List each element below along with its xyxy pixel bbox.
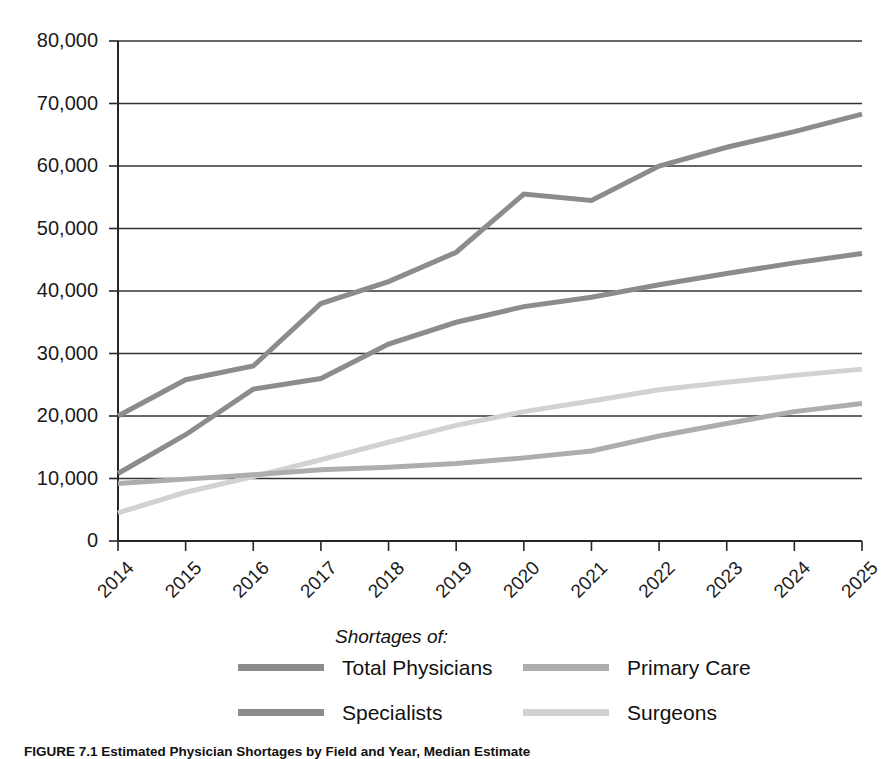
legend-title: Shortages of:: [335, 626, 448, 648]
legend-swatch-specialists: [238, 709, 324, 716]
legend-label-surgeons: Surgeons: [627, 702, 717, 723]
data-series: [118, 114, 862, 513]
x-tick-label: 2018: [364, 557, 409, 602]
chart-plot-area: 010,00020,00030,00040,00050,00060,00070,…: [0, 0, 887, 620]
y-tick-label: 40,000: [37, 279, 98, 301]
legend-swatch-primary-care: [523, 664, 609, 671]
legend-label-specialists: Specialists: [342, 702, 442, 723]
chart-legend: Shortages of: Total Physicians Specialis…: [0, 626, 887, 730]
x-tick-label: 2017: [296, 557, 341, 602]
y-axis-tick-labels: 010,00020,00030,00040,00050,00060,00070,…: [37, 29, 98, 551]
series-line-total-physicians: [118, 114, 862, 416]
x-tick-label: 2023: [702, 557, 747, 602]
legend-item-primary-care[interactable]: Primary Care: [523, 657, 751, 678]
legend-item-surgeons[interactable]: Surgeons: [523, 702, 717, 723]
legend-label-total-physicians: Total Physicians: [342, 657, 493, 678]
y-tick-label: 0: [87, 529, 98, 551]
y-tick-label: 30,000: [37, 342, 98, 364]
gridlines: [118, 41, 862, 479]
y-tick-label: 50,000: [37, 217, 98, 239]
series-line-specialists: [118, 254, 862, 474]
legend-swatch-surgeons: [523, 709, 609, 716]
legend-swatch-total-physicians: [238, 664, 324, 671]
x-tick-label: 2020: [499, 557, 544, 602]
y-tick-label: 10,000: [37, 467, 98, 489]
legend-item-specialists[interactable]: Specialists: [238, 702, 442, 723]
y-tick-label: 70,000: [37, 92, 98, 114]
x-tick-label: 2019: [431, 557, 476, 602]
x-tick-label: 2024: [769, 557, 814, 602]
x-axis-ticks: [118, 541, 862, 551]
y-tick-label: 60,000: [37, 154, 98, 176]
y-tick-label: 20,000: [37, 404, 98, 426]
figure-caption: FIGURE 7.1 Estimated Physician Shortages…: [24, 744, 884, 759]
x-tick-label: 2015: [161, 557, 206, 602]
x-tick-label: 2021: [567, 557, 612, 602]
x-tick-label: 2022: [634, 557, 679, 602]
x-tick-label: 2016: [228, 557, 273, 602]
y-axis-ticks: [109, 41, 118, 541]
x-tick-label: 2014: [93, 557, 138, 602]
legend-label-primary-care: Primary Care: [627, 657, 751, 678]
line-chart: 010,00020,00030,00040,00050,00060,00070,…: [0, 0, 887, 620]
x-tick-label: 2025: [837, 557, 882, 602]
y-tick-label: 80,000: [37, 29, 98, 51]
x-axis-tick-labels: 2014201520162017201820192020202120222023…: [93, 557, 882, 602]
legend-item-total-physicians[interactable]: Total Physicians: [238, 657, 493, 678]
series-line-surgeons: [118, 369, 862, 513]
